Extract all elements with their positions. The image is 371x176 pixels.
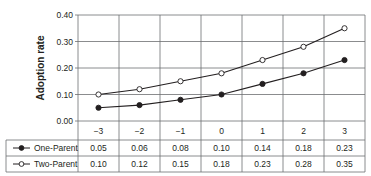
legend-label: Two-Parent xyxy=(34,159,78,169)
x-tick-label: −2 xyxy=(135,126,145,136)
x-tick-label: 3 xyxy=(342,126,347,136)
legend-open-circle-icon xyxy=(19,162,24,167)
table-cell-value: 0.28 xyxy=(295,159,312,169)
table-cell-value: 0.18 xyxy=(295,143,312,153)
x-tick-label: −3 xyxy=(94,126,104,136)
y-tick-label: 0.00 xyxy=(56,116,73,126)
filled-circle-marker xyxy=(260,81,265,86)
filled-circle-marker xyxy=(96,105,101,110)
y-tick-label: 0.20 xyxy=(56,63,73,73)
y-tick-label: 0.40 xyxy=(56,10,73,20)
open-circle-marker xyxy=(178,79,183,84)
y-tick-label: 0.30 xyxy=(56,37,73,47)
table-cell-value: 0.23 xyxy=(254,159,271,169)
filled-circle-marker xyxy=(301,71,306,76)
y-axis-title: Adoption rate xyxy=(35,35,46,100)
series-line-two-parent xyxy=(99,28,345,94)
adoption-rate-chart: Adoption rate 0.000.100.200.300.40 −3−2−… xyxy=(0,0,371,176)
table-cell-value: 0.12 xyxy=(131,159,148,169)
table-cell-value: 0.10 xyxy=(90,159,107,169)
open-circle-marker xyxy=(342,26,347,31)
table-cell-value: 0.05 xyxy=(90,143,107,153)
y-axis-ticks: 0.000.100.200.300.40 xyxy=(56,10,78,126)
table-cell-value: 0.06 xyxy=(131,143,148,153)
filled-circle-marker xyxy=(219,92,224,97)
open-circle-marker xyxy=(219,71,224,76)
legend-filled-circle-icon xyxy=(19,146,24,151)
y-tick-label: 0.10 xyxy=(56,90,73,100)
table-cell-value: 0.23 xyxy=(336,143,353,153)
table-cell-value: 0.18 xyxy=(213,159,230,169)
filled-circle-marker xyxy=(137,103,142,108)
table-cell-value: 0.10 xyxy=(213,143,230,153)
open-circle-marker xyxy=(260,57,265,62)
filled-circle-marker xyxy=(178,97,183,102)
series-line-one-parent xyxy=(99,60,345,108)
filled-circle-marker xyxy=(342,57,347,62)
x-tick-label: 0 xyxy=(219,126,224,136)
y-axis-label: Adoption rate xyxy=(35,35,46,100)
legend-label: One-Parent xyxy=(34,143,79,153)
table-cell-value: 0.35 xyxy=(336,159,353,169)
x-tick-label: −1 xyxy=(176,126,186,136)
table-cell-value: 0.15 xyxy=(172,159,189,169)
table-cell-value: 0.14 xyxy=(254,143,271,153)
x-tick-label: 1 xyxy=(260,126,265,136)
table-cell-value: 0.08 xyxy=(172,143,189,153)
x-tick-label: 2 xyxy=(301,126,306,136)
open-circle-marker xyxy=(137,87,142,92)
data-table: One-Parent0.050.060.080.100.140.180.23Tw… xyxy=(6,140,365,172)
open-circle-marker xyxy=(301,44,306,49)
open-circle-marker xyxy=(96,92,101,97)
